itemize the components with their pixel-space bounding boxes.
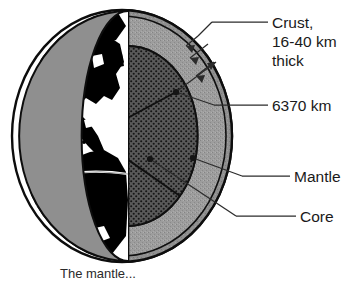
crust-label-line-2: 16-40 km bbox=[272, 33, 337, 50]
radius-label: 6370 km bbox=[272, 97, 331, 114]
landmass-island-b bbox=[112, 54, 124, 68]
core-label: Core bbox=[300, 208, 334, 225]
figure-caption: The mantle... bbox=[60, 266, 136, 281]
mantle-label: Mantle bbox=[294, 168, 341, 185]
crust-label-line-1: Crust, bbox=[272, 14, 313, 31]
radius-leader-dot bbox=[173, 89, 179, 95]
core-leader-dot bbox=[147, 156, 153, 162]
crust-label-line-3: thick bbox=[272, 52, 304, 69]
mantle-leader-dot bbox=[190, 155, 196, 161]
